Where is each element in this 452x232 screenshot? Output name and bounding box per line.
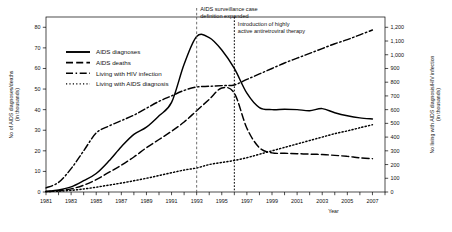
y-right-tick-label: 700 <box>391 93 400 99</box>
y-right-tick-label: 1,000 <box>391 52 405 58</box>
y-left-tick-label: 20 <box>35 148 41 154</box>
annotation-label-surveillance-case-definition-line1: AIDS surveillance case <box>200 6 258 12</box>
legend-label-0: AIDS diagnoses <box>96 48 140 55</box>
y-right-axis-title: No living with AIDS diagnosis/HIV infect… <box>429 55 441 153</box>
x-tick-label: 1985 <box>90 198 102 204</box>
y-right-tick-label: 600 <box>391 107 400 113</box>
series-line-aids-diagnoses <box>46 34 372 191</box>
x-tick-label: 1981 <box>40 198 52 204</box>
y-right-tick-label: 400 <box>391 134 400 140</box>
y-right-tick-label: 900 <box>391 65 400 71</box>
y-right-tick-label: 300 <box>391 148 400 154</box>
y-left-tick-label: 0 <box>38 189 41 195</box>
x-tick-label: 1997 <box>241 198 253 204</box>
x-tick-label: 1993 <box>191 198 203 204</box>
x-tick-label: 2005 <box>341 198 353 204</box>
x-tick-label: 1991 <box>166 198 178 204</box>
x-tick-label: 1995 <box>216 198 228 204</box>
x-tick-label: 1987 <box>115 198 127 204</box>
x-tick-label: 2003 <box>316 198 328 204</box>
y-left-tick-label: 40 <box>35 107 41 113</box>
y-right-tick-label: 500 <box>391 120 400 126</box>
x-axis-title: Year <box>328 208 339 214</box>
y-right-tick-label: 0 <box>391 189 394 195</box>
y-right-tick-label: 200 <box>391 162 400 168</box>
legend-label-2: Living with HIV infection <box>96 70 162 77</box>
y-left-tick-label: 30 <box>35 127 41 133</box>
y-left-tick-label: 50 <box>35 86 41 92</box>
y-left-tick-label: 70 <box>35 45 41 51</box>
y-right-tick-label: 1,100 <box>391 38 405 44</box>
y-left-tick-label: 10 <box>35 168 41 174</box>
y-left-tick-label: 80 <box>35 24 41 30</box>
x-tick-label: 2001 <box>291 198 303 204</box>
y-right-tick-label: 100 <box>391 175 400 181</box>
y-left-axis-title: No of AIDS diagnoses/deaths(in thousands… <box>8 70 20 138</box>
legend-label-1: AIDS deaths <box>96 59 131 66</box>
y-right-tick-label: 800 <box>391 79 400 85</box>
chart-figure: 1981198319851987198919911993199519971999… <box>0 0 452 232</box>
annotation-label-haart-introduction-line1: Introduction of highly <box>238 21 290 27</box>
x-tick-label: 1989 <box>140 198 152 204</box>
series-line-aids-deaths <box>46 87 372 191</box>
x-tick-label: 1999 <box>266 198 278 204</box>
x-tick-label: 1983 <box>65 198 77 204</box>
y-left-tick-label: 60 <box>35 65 41 71</box>
aids-surveillance-line-chart: 1981198319851987198919911993199519971999… <box>0 0 452 232</box>
annotation-label-surveillance-case-definition-line2: definition expanded <box>200 13 249 19</box>
x-tick-label: 2007 <box>366 198 378 204</box>
y-right-tick-label: 1,200 <box>391 24 405 30</box>
legend-label-3: Living with AIDS diagnosis <box>96 80 169 87</box>
annotation-label-haart-introduction-line2: active antiretroviral therapy <box>238 28 305 34</box>
